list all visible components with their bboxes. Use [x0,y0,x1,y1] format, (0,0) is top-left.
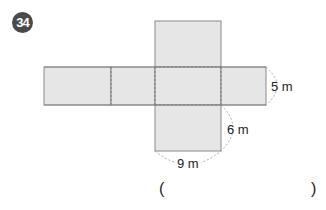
answer-close-paren: ) [311,180,316,198]
net-face-bottom [155,105,221,151]
net-face-left-side [111,67,155,105]
net-face-top [155,21,221,67]
net-face-left-end [44,67,111,105]
cuboid-net-diagram [0,0,326,210]
height-dimension-label: 5 m [271,79,293,94]
width-dimension-label: 9 m [175,156,201,171]
net-face-right-side [221,67,266,105]
answer-blank[interactable] [170,180,305,200]
depth-dimension-label: 6 m [227,122,249,137]
net-face-center [155,67,221,105]
answer-open-paren: ( [159,180,164,198]
